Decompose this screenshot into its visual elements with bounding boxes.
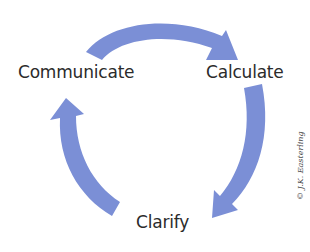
node-calculate: Calculate [206,62,284,82]
arrow-calculate-to-clarify [212,84,265,218]
copyright-notice: © J.K. Easterling [296,131,305,200]
arrow-communicate-to-calculate [86,23,238,60]
node-clarify: Clarify [136,212,189,232]
arrow-clarify-to-communicate [50,98,120,216]
node-communicate: Communicate [18,62,134,82]
